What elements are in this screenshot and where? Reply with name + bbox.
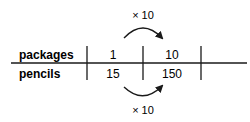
row-label-pencils: pencils xyxy=(19,67,61,81)
pencils-value-2: 150 xyxy=(162,67,182,81)
bottom-curved-arrow-icon xyxy=(124,86,162,96)
top-curved-arrow-icon xyxy=(124,28,162,38)
packages-value-1: 1 xyxy=(110,48,117,62)
double-number-line-diagram: packages pencils 1 10 15 150 × 10 × 10 xyxy=(0,0,250,122)
pencils-value-1: 15 xyxy=(106,67,120,81)
row-label-packages: packages xyxy=(19,48,74,62)
top-multiplier-label: × 10 xyxy=(132,9,154,21)
packages-value-2: 10 xyxy=(165,48,179,62)
bottom-multiplier-label: × 10 xyxy=(132,104,154,116)
